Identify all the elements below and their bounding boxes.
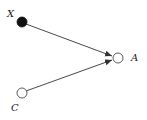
node-a	[113, 53, 123, 63]
edge-x-to-a	[26, 24, 112, 56]
causal-diagram: X A C	[0, 0, 147, 120]
label-a: A	[130, 52, 138, 63]
edge-c-to-a	[26, 60, 112, 91]
label-c: C	[11, 102, 19, 113]
node-x	[17, 17, 27, 27]
label-x: X	[6, 8, 15, 19]
node-c	[17, 88, 27, 98]
